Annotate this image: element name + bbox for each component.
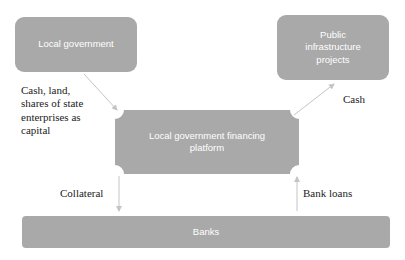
- node-local-government: Local government: [15, 17, 137, 72]
- capital-line-2: shares of state: [21, 97, 121, 110]
- edge-label-bank-loans: Bank loans: [303, 187, 352, 200]
- node-financing-platform: Local government financing platform: [115, 110, 299, 174]
- node-local-government-label: Local government: [38, 38, 114, 50]
- node-public-infrastructure: Public infrastructure projects: [277, 15, 389, 80]
- node-public-line-2: infrastructure: [305, 41, 360, 53]
- capital-line-3: enterprises as: [21, 111, 121, 124]
- capital-line-4: capital: [21, 124, 121, 137]
- node-public-line-3: projects: [316, 54, 349, 66]
- node-banks-label: Banks: [193, 226, 219, 238]
- capital-line-1: Cash, land,: [21, 84, 121, 97]
- edge-label-cash: Cash: [343, 93, 365, 106]
- node-platform-line-1: Local government financing: [149, 130, 265, 142]
- edge-label-collateral: Collateral: [60, 187, 103, 200]
- node-banks: Banks: [22, 216, 390, 248]
- node-public-line-1: Public: [320, 29, 346, 41]
- edge-label-capital: Cash, land, shares of state enterprises …: [21, 84, 121, 138]
- node-platform-line-2: platform: [190, 142, 224, 154]
- arrow-platform-to-public: [294, 84, 334, 115]
